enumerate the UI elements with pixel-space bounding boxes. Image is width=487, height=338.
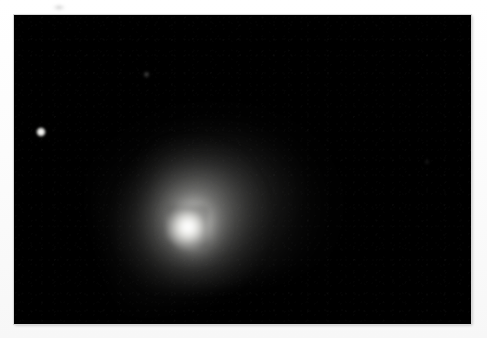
image-alt-text: Black-and-white astronomical photograph … <box>0 0 1 1</box>
comet-coma <box>110 111 290 287</box>
comet-tail-fan <box>54 15 414 316</box>
margin-smudge-artifact <box>52 4 66 11</box>
sky-grain-texture <box>14 15 471 324</box>
field-star-dim <box>424 159 430 165</box>
field-star-bright <box>36 127 46 137</box>
photographic-plate <box>14 15 471 324</box>
comet-photograph-page: Black-and-white astronomical photograph … <box>0 0 487 338</box>
comet-tail-fan-secondary <box>144 70 394 260</box>
comet-coma-core <box>152 177 236 271</box>
field-star-faint <box>143 71 150 78</box>
comet-nucleus <box>167 205 209 249</box>
